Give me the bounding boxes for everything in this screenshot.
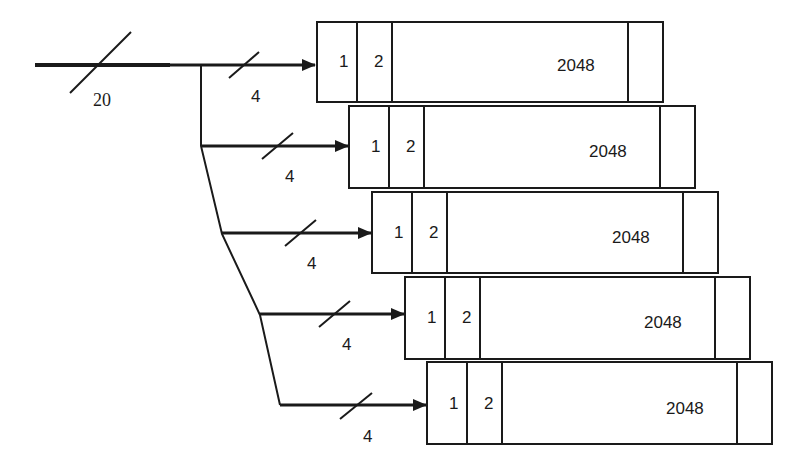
memory-block: 1 2 2048 bbox=[405, 277, 750, 359]
cell-2: 2 bbox=[462, 308, 471, 327]
branch-width-label: 4 bbox=[307, 254, 316, 273]
bus-split-diagram: 20 4 1 2 2048 4 1 2 2048 bbox=[0, 0, 805, 471]
branch-1: 4 1 2 2048 bbox=[201, 22, 663, 106]
branch-width-label: 4 bbox=[285, 167, 294, 186]
cell-last: 2048 bbox=[666, 399, 704, 418]
branch-width-label: 4 bbox=[251, 87, 260, 106]
cell-1: 1 bbox=[371, 137, 380, 156]
cell-1: 1 bbox=[394, 223, 403, 242]
branch-5: 4 1 2 2048 bbox=[280, 362, 772, 446]
input-bus-width-label: 20 bbox=[93, 90, 111, 110]
memory-block: 1 2 2048 bbox=[427, 362, 772, 444]
branch-3: 4 1 2 2048 bbox=[222, 192, 718, 273]
branch-2: 4 1 2 2048 bbox=[201, 106, 695, 188]
cell-1: 1 bbox=[339, 52, 348, 71]
input-bus: 20 bbox=[35, 32, 201, 110]
branch-width-label: 4 bbox=[342, 335, 351, 354]
cell-last: 2048 bbox=[557, 56, 595, 75]
cell-1: 1 bbox=[427, 308, 436, 327]
cell-last: 2048 bbox=[589, 142, 627, 161]
cell-2: 2 bbox=[374, 52, 383, 71]
cell-2: 2 bbox=[484, 394, 493, 413]
bus-splitter-trunk bbox=[201, 65, 280, 405]
cell-1: 1 bbox=[449, 394, 458, 413]
bus-width-slash bbox=[70, 32, 131, 93]
memory-block: 1 2 2048 bbox=[372, 192, 718, 273]
branch-4: 4 1 2 2048 bbox=[260, 277, 750, 359]
cell-last: 2048 bbox=[644, 313, 682, 332]
cell-2: 2 bbox=[429, 223, 438, 242]
memory-block: 1 2 2048 bbox=[317, 22, 663, 102]
memory-block: 1 2 2048 bbox=[349, 106, 695, 188]
branch-width-label: 4 bbox=[363, 427, 372, 446]
cell-2: 2 bbox=[406, 137, 415, 156]
cell-last: 2048 bbox=[612, 228, 650, 247]
